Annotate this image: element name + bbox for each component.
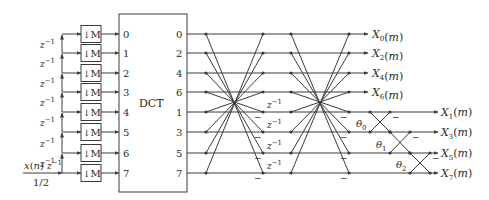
minus-sign: − xyxy=(254,153,262,163)
delay-label: z−1 xyxy=(39,116,55,128)
dct-output-port: 1 xyxy=(176,107,182,118)
rotation-angle-label: θ0 xyxy=(356,118,367,132)
minus-sign: − xyxy=(340,132,348,142)
junction-node xyxy=(204,32,207,35)
junction-node xyxy=(204,90,207,93)
minus-sign: − xyxy=(340,153,348,163)
dct-input-port: 2 xyxy=(123,68,129,79)
output-label-X4m: X4(m) xyxy=(371,67,403,83)
dct-output-port: 6 xyxy=(176,87,182,98)
downsampler-label: ↓M xyxy=(83,107,101,118)
rotation-stage: θ0−θ1−θ2− xyxy=(349,110,440,174)
minus-sign: − xyxy=(340,112,348,122)
minus-sign: − xyxy=(392,112,400,122)
delay-label: z−1 xyxy=(39,96,55,108)
rotation-angle-label: θ1 xyxy=(376,139,387,153)
junction-node xyxy=(204,51,207,54)
junction-node xyxy=(204,71,207,74)
junction-node xyxy=(289,151,292,154)
junction-node xyxy=(289,71,292,74)
dct-output-port: 2 xyxy=(176,48,182,59)
junction-node xyxy=(289,171,292,174)
delay-label: z−1 xyxy=(39,38,55,50)
inter-stage-delay-label: z−1 xyxy=(266,98,282,110)
delay-chain: z−1z−1z−1z−1z−1z−1z−1 xyxy=(39,35,62,173)
delay-label: z−1 xyxy=(39,77,55,89)
dct-block: DCT0123456702461357 xyxy=(119,14,187,192)
dct-output-port: 0 xyxy=(176,29,182,40)
dct-output-port: 3 xyxy=(176,127,182,138)
minus-sign: − xyxy=(412,132,420,142)
minus-sign: − xyxy=(254,173,262,183)
dct-input-port: 7 xyxy=(123,168,129,179)
junction-node xyxy=(289,90,292,93)
rotation-angle-label: θ2 xyxy=(396,159,407,173)
junction-node xyxy=(204,130,207,133)
minus-sign: − xyxy=(340,173,348,183)
junction-node xyxy=(204,151,207,154)
inter-stage-delay-label: z−1 xyxy=(266,159,282,171)
minus-sign: − xyxy=(254,112,262,122)
output-label-X7m: X7(m) xyxy=(440,167,472,182)
delay-label: z−1 xyxy=(39,137,55,149)
dct-output-port: 4 xyxy=(176,68,182,79)
dct-input-port: 4 xyxy=(123,107,129,118)
output-label-X3m: X3(m) xyxy=(440,126,472,141)
dct-input-port: 1 xyxy=(123,48,129,59)
junction-node xyxy=(204,110,207,113)
junction-node xyxy=(289,130,292,133)
junction-node xyxy=(289,32,292,35)
dct-label: DCT xyxy=(139,97,164,110)
butterfly-stage-2: −−−− xyxy=(289,32,350,183)
output-label-X0m: X0(m) xyxy=(371,28,403,44)
butterfly-stage-1: −−−− xyxy=(187,32,265,183)
outputs: X0(m)X2(m)X4(m)X6(m)X1(m)X3(m)X5(m)X7(m) xyxy=(349,28,472,182)
downsampler-label: ↓M xyxy=(83,168,101,179)
downsampler-label: ↓M xyxy=(83,29,101,40)
inter-stage-delay-label: z−1 xyxy=(266,118,282,130)
downsampler-label: ↓M xyxy=(83,87,101,98)
downsampler-label: ↓M xyxy=(83,127,101,138)
dct-input-port: 0 xyxy=(123,29,129,40)
downsampler-label: ↓M xyxy=(83,48,101,59)
inter-stage-delays: z−1z−1z−1z−1 xyxy=(263,34,291,173)
output-label-X6m: X6(m) xyxy=(371,86,403,102)
output-label-X1m: X1(m) xyxy=(440,106,472,121)
gain-label: 1/2 xyxy=(33,177,49,188)
polyphase-dct-filterbank-diagram: x(n)z−11/2 z−1z−1z−1z−1z−1z−1z−1 ↓M↓M↓M↓… xyxy=(0,0,489,200)
dct-output-port: 5 xyxy=(176,148,182,159)
junction-node xyxy=(204,171,207,174)
delay-label: z−1 xyxy=(39,57,55,69)
junction-node xyxy=(289,51,292,54)
dct-output-port: 7 xyxy=(176,168,182,179)
output-label-X5m: X5(m) xyxy=(440,147,472,162)
downsampler-label: ↓M xyxy=(83,68,101,79)
minus-sign: − xyxy=(432,153,440,163)
dct-input-port: 5 xyxy=(123,127,129,138)
dct-input-port: 6 xyxy=(123,148,129,159)
inter-stage-delay-label: z−1 xyxy=(266,139,282,151)
downsampler-label: ↓M xyxy=(83,148,101,159)
output-label-X2m: X2(m) xyxy=(371,47,403,63)
junction-node xyxy=(289,110,292,113)
minus-sign: − xyxy=(254,132,262,142)
downsampler-bank: ↓M↓M↓M↓M↓M↓M↓M↓M xyxy=(62,26,119,182)
dct-input-port: 3 xyxy=(123,87,129,98)
